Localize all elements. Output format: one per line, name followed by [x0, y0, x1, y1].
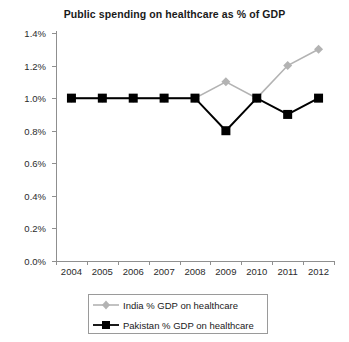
- y-axis-tick-mark: [52, 66, 56, 67]
- legend-key-pakistan: [89, 315, 123, 335]
- x-axis-tick-mark: [56, 261, 57, 265]
- series-data-point: [283, 110, 292, 119]
- x-axis-tick-label: 2008: [184, 266, 205, 277]
- x-axis-tick-mark: [272, 261, 273, 265]
- series-data-point: [67, 94, 76, 103]
- x-axis-tick-mark: [241, 261, 242, 265]
- y-axis-tick-label: 0.0%: [0, 256, 46, 267]
- x-axis-tick-mark: [303, 261, 304, 265]
- series-data-point: [160, 94, 169, 103]
- series-data-point: [314, 94, 323, 103]
- series-data-point: [191, 94, 200, 103]
- y-axis-tick-label: 1.2%: [0, 60, 46, 71]
- series-india: [67, 45, 323, 103]
- series-data-point: [160, 94, 169, 103]
- chart-legend: India % GDP on healthcare Pakistan % GDP…: [88, 294, 268, 334]
- x-axis-tick-mark: [118, 261, 119, 265]
- x-axis-tick-label: 2006: [123, 266, 144, 277]
- x-axis-tick-mark: [87, 261, 88, 265]
- legend-label-india: India % GDP on healthcare: [123, 300, 238, 311]
- series-data-point: [283, 61, 292, 70]
- series-data-point: [129, 94, 138, 103]
- x-axis-tick-label: 2009: [215, 266, 236, 277]
- y-axis-tick-label: 0.4%: [0, 190, 46, 201]
- x-axis-tick-label: 2011: [277, 266, 297, 277]
- chart-title: Public spending on healthcare as % of GD…: [0, 8, 349, 20]
- y-axis-tick-mark: [52, 33, 56, 34]
- legend-item-india: India % GDP on healthcare: [89, 295, 269, 315]
- series-data-point: [191, 94, 200, 103]
- y-axis-tick-label: 0.6%: [0, 158, 46, 169]
- series-data-point: [314, 45, 323, 54]
- series-data-point: [67, 94, 76, 103]
- y-axis-tick-mark: [52, 196, 56, 197]
- x-axis-tick-mark: [210, 261, 211, 265]
- y-axis-tick-label: 0.2%: [0, 223, 46, 234]
- series-pakistan: [67, 94, 323, 136]
- y-axis-tick-label: 0.8%: [0, 125, 46, 136]
- series-line: [71, 98, 318, 131]
- x-axis-tick-label: 2005: [92, 266, 113, 277]
- legend-label-pakistan: Pakistan % GDP on healthcare: [123, 320, 254, 331]
- legend-item-pakistan: Pakistan % GDP on healthcare: [89, 315, 269, 335]
- series-line: [71, 49, 318, 98]
- series-data-point: [221, 126, 230, 135]
- x-axis-tick-mark: [334, 261, 335, 265]
- series-data-point: [98, 94, 107, 103]
- legend-key-india: [89, 295, 123, 315]
- x-axis-tick-label: 2004: [61, 266, 82, 277]
- series-data-point: [252, 94, 261, 103]
- plot-series-layer: [0, 0, 349, 342]
- y-axis-tick-mark: [52, 131, 56, 132]
- series-data-point: [221, 77, 230, 86]
- y-axis-tick-label: 1.4%: [0, 28, 46, 39]
- x-axis-tick-label: 2007: [154, 266, 175, 277]
- y-axis-tick-mark: [52, 98, 56, 99]
- x-axis-tick-mark: [180, 261, 181, 265]
- y-axis-tick-label: 1.0%: [0, 93, 46, 104]
- series-data-point: [252, 94, 261, 103]
- y-axis-line: [56, 31, 57, 263]
- series-data-point: [129, 94, 138, 103]
- chart-container: Public spending on healthcare as % of GD…: [0, 0, 349, 342]
- x-axis-tick-label: 2010: [246, 266, 267, 277]
- y-axis-tick-mark: [52, 228, 56, 229]
- y-axis-tick-mark: [52, 163, 56, 164]
- x-axis-line: [56, 261, 335, 262]
- x-axis-tick-mark: [149, 261, 150, 265]
- x-axis-tick-label: 2012: [308, 266, 329, 277]
- series-data-point: [98, 94, 107, 103]
